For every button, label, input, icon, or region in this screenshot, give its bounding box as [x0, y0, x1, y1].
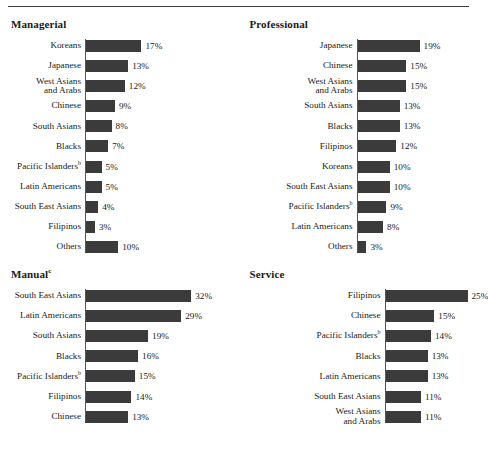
bar-row: Pacific Islandersb9%: [239, 200, 478, 214]
bar-category-label: Chinese: [0, 101, 85, 111]
bar-category-label: Latin Americans: [0, 182, 85, 192]
bar-value-label: 32%: [195, 291, 212, 301]
bar-value-label: 9%: [119, 101, 131, 111]
bar: [357, 181, 390, 193]
bar-value-label: 11%: [425, 412, 442, 422]
footnote-marker: b: [350, 200, 353, 206]
bar-value-label: 12%: [129, 81, 146, 91]
bar-track: 3%: [357, 241, 478, 253]
bar-value-label: 13%: [432, 351, 449, 361]
bar-track: 13%: [357, 120, 478, 132]
bar-track: 10%: [85, 241, 239, 253]
bar-category-label: Filipinos: [0, 222, 85, 232]
bar-value-label: 10%: [394, 162, 411, 172]
bar-category-label: Pacific Islandersb: [0, 372, 85, 382]
bar: [85, 120, 112, 132]
bar-row: Japanese13%: [0, 59, 239, 73]
bar-value-label: 7%: [112, 141, 124, 151]
bar-category-label: Latin Americans: [0, 311, 85, 321]
panel-professional: Professional Japanese19%Chinese15%West A…: [239, 10, 478, 260]
bar-value-label: 12%: [400, 141, 417, 151]
panel-title-text: Service: [250, 268, 285, 280]
bar-track: 7%: [85, 140, 239, 152]
bar-row: Blacks13%: [239, 119, 478, 133]
bar-category-label: Japanese: [239, 41, 357, 51]
bar: [85, 241, 118, 253]
bar-value-label: 15%: [410, 61, 427, 71]
bar-value-label: 25%: [472, 291, 488, 301]
bar-category-label: Latin Americans: [239, 222, 357, 232]
bar-row: Japanese19%: [239, 39, 478, 53]
bar-track: 14%: [385, 330, 478, 342]
bar-value-label: 15%: [410, 81, 427, 91]
bar-category-label: Latin Americans: [239, 372, 385, 382]
bar-value-label: 19%: [152, 331, 169, 341]
bar-track: 10%: [357, 181, 478, 193]
bar-track: 8%: [357, 221, 478, 233]
bar-track: 13%: [357, 100, 478, 112]
bar-value-label: 15%: [139, 371, 156, 381]
panel-title-manual: Manualc: [11, 268, 239, 280]
bar-track: 32%: [85, 290, 239, 302]
bar-category-label: South Asians: [0, 331, 85, 341]
value-axis-line: [357, 39, 358, 252]
bar-row: West Asians and Arabs11%: [239, 410, 478, 424]
bar-category-label: Filipinos: [239, 291, 385, 301]
bar-row: Chinese9%: [0, 99, 239, 113]
bar-track: 9%: [85, 100, 239, 112]
bar: [385, 350, 428, 362]
bar-track: 12%: [357, 140, 478, 152]
bar: [85, 140, 108, 152]
bar-value-label: 5%: [106, 182, 118, 192]
bar-value-label: 13%: [404, 121, 421, 131]
bar-value-label: 13%: [404, 101, 421, 111]
bar-row: South Asians8%: [0, 119, 239, 133]
bar-value-label: 3%: [99, 222, 111, 232]
bar-value-label: 15%: [438, 311, 455, 321]
bar-track: 11%: [385, 391, 478, 403]
bar-track: 19%: [85, 330, 239, 342]
bar: [357, 60, 407, 72]
bar: [85, 221, 95, 233]
bar: [357, 140, 397, 152]
bar-row: South East Asians4%: [0, 200, 239, 214]
bar-value-label: 29%: [185, 311, 202, 321]
bar: [385, 330, 431, 342]
bar-track: 25%: [385, 290, 488, 302]
bar-row: Pacific Islandersb14%: [239, 329, 478, 343]
bar-row: Koreans17%: [0, 39, 239, 53]
bar-track: 5%: [85, 181, 239, 193]
bar-category-label: South East Asians: [239, 392, 385, 402]
bar: [85, 370, 135, 382]
bar-row: Chinese13%: [0, 410, 239, 424]
bar-row: Latin Americans13%: [239, 369, 478, 383]
bar-value-label: 10%: [394, 182, 411, 192]
bar: [85, 40, 141, 52]
value-axis-line: [85, 289, 86, 422]
bar-value-label: 9%: [390, 202, 402, 212]
panel-title-text: Professional: [250, 18, 308, 30]
bar-category-label: West Asians and Arabs: [239, 77, 357, 96]
bar-row: South East Asians11%: [239, 390, 478, 404]
bar-category-label: Pacific Islandersb: [0, 162, 85, 172]
bar: [357, 221, 384, 233]
bar-track: 19%: [357, 40, 478, 52]
bar-category-label: Japanese: [0, 61, 85, 71]
bar-track: 16%: [85, 350, 239, 362]
bar-row: West Asians and Arabs12%: [0, 79, 239, 93]
bar-track: 9%: [357, 201, 478, 213]
bar-category-label: Chinese: [239, 61, 357, 71]
bar: [85, 201, 98, 213]
bar: [85, 391, 131, 403]
panel-title-text: Manual: [11, 268, 48, 280]
bar: [85, 100, 115, 112]
bar: [357, 80, 407, 92]
bar-track: 12%: [85, 80, 239, 92]
bar-value-label: 13%: [432, 371, 449, 381]
bar-category-label: Koreans: [239, 162, 357, 172]
chart-professional: Japanese19%Chinese15%West Asians and Ara…: [239, 39, 478, 254]
bars-container: South East Asians32%Latin Americans29%So…: [0, 289, 239, 424]
bar-category-label: Koreans: [0, 41, 85, 51]
bar-row: Koreans10%: [239, 160, 478, 174]
bar-row: Latin Americans5%: [0, 180, 239, 194]
